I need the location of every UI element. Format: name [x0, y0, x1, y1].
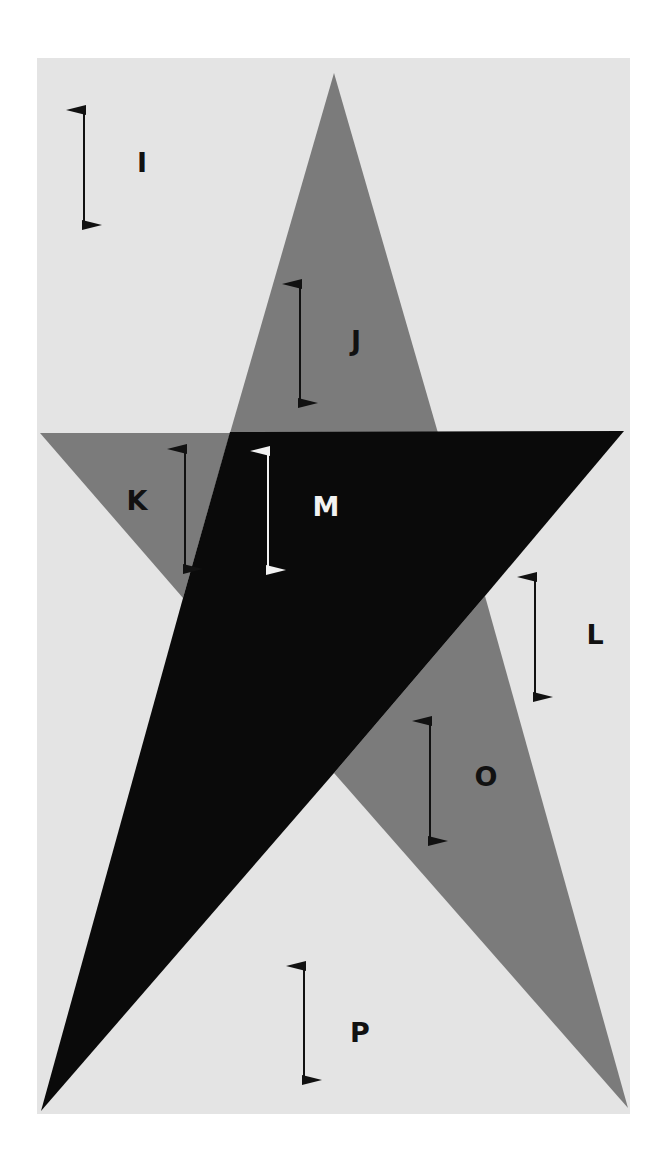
- label-J: J: [349, 325, 361, 356]
- label-M: M: [313, 491, 340, 522]
- label-K: K: [127, 485, 149, 516]
- label-O: O: [475, 761, 498, 792]
- star-diagram: I J K M L O P: [0, 0, 663, 1161]
- label-P: P: [350, 1017, 370, 1048]
- label-L: L: [586, 619, 603, 650]
- label-I: I: [137, 147, 147, 178]
